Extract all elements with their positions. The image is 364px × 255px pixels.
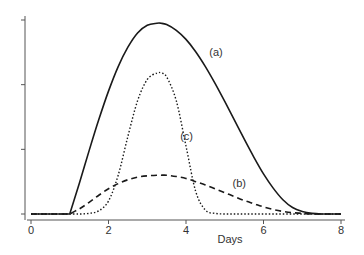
series-annotation: (a) [209, 46, 222, 58]
x-tick-label: 0 [28, 224, 34, 236]
y-ticks [21, 20, 25, 214]
x-tick-label: 6 [260, 224, 266, 236]
chart: 02468 Days (a)(b)(c) [0, 0, 364, 255]
annotations: (a)(b)(c) [180, 46, 246, 189]
series-line-a [31, 23, 341, 214]
series-annotation: (c) [180, 130, 193, 142]
x-tick-label: 2 [105, 224, 111, 236]
series-line-c [31, 72, 341, 214]
x-axis-label: Days [217, 233, 243, 245]
series-annotation: (b) [233, 177, 246, 189]
series-group [31, 23, 341, 214]
x-tick-label: 8 [338, 224, 344, 236]
axes [25, 16, 345, 220]
x-tick-label: 4 [183, 224, 189, 236]
x-ticks: 02468 [28, 220, 344, 236]
